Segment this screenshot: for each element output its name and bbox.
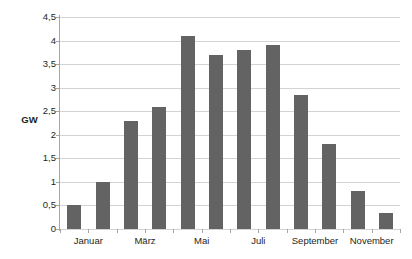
y-tick-label: 4,5 bbox=[16, 12, 56, 22]
y-tick-label: 4 bbox=[16, 36, 56, 46]
bar bbox=[351, 191, 365, 229]
y-tick-mark bbox=[56, 205, 60, 206]
bar-chart: GW 00,511,522,533,544,5JanuarMärzMaiJuli… bbox=[0, 0, 412, 259]
x-axis-label: September bbox=[292, 236, 338, 246]
y-tick-mark bbox=[56, 111, 60, 112]
y-tick-mark bbox=[56, 64, 60, 65]
y-tick-label: 2 bbox=[16, 130, 56, 140]
gridline bbox=[60, 88, 400, 89]
x-axis-label: März bbox=[134, 236, 155, 246]
gridline bbox=[60, 182, 400, 183]
y-tick-mark bbox=[56, 41, 60, 42]
bar bbox=[209, 55, 223, 229]
gridline bbox=[60, 111, 400, 112]
bar bbox=[237, 50, 251, 229]
bar bbox=[67, 205, 81, 229]
x-tick-mark bbox=[173, 229, 174, 233]
x-tick-mark bbox=[315, 229, 316, 233]
y-tick-label: 2,5 bbox=[16, 106, 56, 116]
y-tick-label: 1,5 bbox=[16, 153, 56, 163]
gridline bbox=[60, 64, 400, 65]
gridline bbox=[60, 158, 400, 159]
y-tick-mark bbox=[56, 135, 60, 136]
x-tick-mark bbox=[60, 229, 61, 233]
bar bbox=[181, 36, 195, 229]
x-tick-mark bbox=[202, 229, 203, 233]
x-tick-mark bbox=[287, 229, 288, 233]
y-tick-label: 3,5 bbox=[16, 59, 56, 69]
x-tick-mark bbox=[88, 229, 89, 233]
x-axis-label: Mai bbox=[194, 236, 209, 246]
x-tick-mark bbox=[372, 229, 373, 233]
bar bbox=[124, 121, 138, 229]
bar bbox=[322, 144, 336, 229]
y-tick-label: 3 bbox=[16, 83, 56, 93]
y-tick-mark bbox=[56, 182, 60, 183]
x-tick-mark bbox=[343, 229, 344, 233]
bar bbox=[294, 95, 308, 229]
bar bbox=[379, 213, 393, 229]
y-tick-label: 0 bbox=[16, 224, 56, 234]
gridline bbox=[60, 17, 400, 18]
bar bbox=[96, 182, 110, 229]
gridline bbox=[60, 135, 400, 136]
x-tick-mark bbox=[258, 229, 259, 233]
x-axis-label: Juli bbox=[251, 236, 265, 246]
y-tick-label: 1 bbox=[16, 177, 56, 187]
x-tick-mark bbox=[145, 229, 146, 233]
y-tick-mark bbox=[56, 17, 60, 18]
x-tick-mark bbox=[400, 229, 401, 233]
bar bbox=[266, 45, 280, 229]
x-axis-label: Januar bbox=[74, 236, 103, 246]
y-tick-label: 0,5 bbox=[16, 200, 56, 210]
y-tick-mark bbox=[56, 158, 60, 159]
x-axis-label: November bbox=[350, 236, 394, 246]
gridline bbox=[60, 205, 400, 206]
x-tick-mark bbox=[230, 229, 231, 233]
bar bbox=[152, 107, 166, 229]
gridline bbox=[60, 41, 400, 42]
plot-area bbox=[60, 17, 400, 229]
y-tick-mark bbox=[56, 88, 60, 89]
x-tick-mark bbox=[117, 229, 118, 233]
